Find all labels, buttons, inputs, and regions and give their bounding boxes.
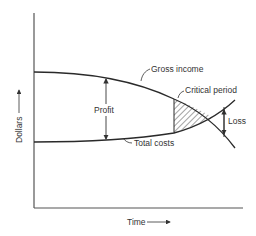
profit-diagram: Profit Loss Gross income Critical period… xyxy=(0,0,256,236)
profit-label: Profit xyxy=(94,105,114,115)
gross-income-curve xyxy=(34,72,235,148)
y-axis-label: Dollars xyxy=(14,117,24,143)
x-axis-label: Time xyxy=(127,217,146,227)
total-costs-label: Total costs xyxy=(134,138,174,148)
gross-income-label: Gross income xyxy=(151,64,204,74)
critical-period-leader xyxy=(178,91,184,98)
loss-label: Loss xyxy=(228,116,246,126)
total-costs-curve xyxy=(34,100,235,142)
critical-period-hatch xyxy=(174,99,214,133)
gross-income-leader xyxy=(141,69,150,81)
critical-period-label: Critical period xyxy=(185,85,237,95)
